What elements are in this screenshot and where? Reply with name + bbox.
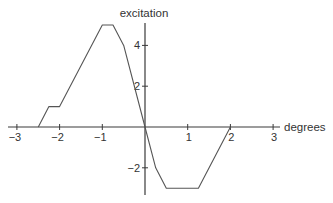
x-axis-title: degrees: [284, 121, 326, 133]
x-tick-label: 3: [271, 131, 277, 143]
x-tick-label: −3: [9, 131, 22, 143]
excitation-chart: −3−2−1123 −224 degrees excitation: [0, 0, 333, 203]
y-axis-title: excitation: [120, 7, 169, 19]
axes: [8, 23, 280, 195]
x-tick-label: 1: [186, 131, 192, 143]
y-tick-label: 4: [134, 39, 140, 51]
x-tick-label: −2: [51, 131, 64, 143]
x-tick-label: 2: [228, 131, 234, 143]
x-tick-label: −1: [94, 131, 107, 143]
y-tick-label: −2: [127, 162, 140, 174]
